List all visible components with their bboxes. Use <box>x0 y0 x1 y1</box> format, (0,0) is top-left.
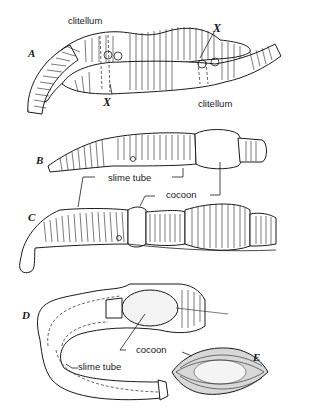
panel-letter-b: B <box>36 155 43 166</box>
label-slime-tube-d: slime tube <box>78 362 121 372</box>
label-x-bottom: X <box>103 96 111 108</box>
label-cocoon-c: cocoon <box>166 190 197 200</box>
panel-letter-d: D <box>22 310 30 321</box>
panel-b-worm <box>48 130 267 173</box>
label-slime-tube-c: slime tube <box>108 173 151 183</box>
label-cocoon-d: cocoon <box>136 345 167 355</box>
leader-lines-bc <box>78 162 220 207</box>
label-x-top: X <box>213 22 221 34</box>
panel-letter-a: A <box>28 48 35 59</box>
panel-c-worm <box>20 204 276 273</box>
label-clitellum-bottom: clitellum <box>198 99 232 109</box>
label-clitellum-top: clitellum <box>68 16 102 26</box>
panel-letter-c: C <box>28 212 35 223</box>
panel-a-worms <box>28 27 281 114</box>
panel-letter-e: E <box>253 352 260 363</box>
